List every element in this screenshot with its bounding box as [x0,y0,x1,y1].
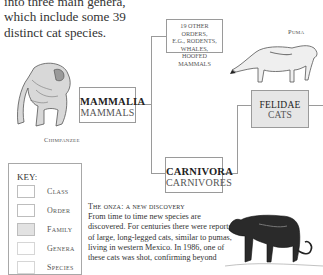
onza-article: The onza: a new discovery From time to t… [88,202,238,263]
puma-caption: Puma [288,28,304,35]
connector-felidae-in [237,105,251,106]
other-orders-line4: HOOFED MAMMALS [167,52,222,67]
connector-other-orders [151,36,166,37]
felidae-subtitle: CATS [252,110,308,120]
key-item-species: Species [17,261,81,275]
family-box-felidae: FELIDAE CATS [251,90,309,128]
chimpanzee-illustration [14,60,78,130]
intro-text: into three main genera, which include so… [4,0,134,40]
order-box-carnivora: CARNIVORA CARNIVORES [165,157,223,193]
key-item-order: Order [17,204,81,218]
other-orders-line2: E.G., RODENTS, [167,37,222,45]
mammalia-title: MAMMALIA [80,96,135,107]
key-label-class: Class [47,187,69,196]
connector-felidae-down [237,128,238,148]
swatch-species [17,261,35,274]
chimpanzee-caption: Chimpanzee [44,136,80,143]
onza-illustration [225,210,323,271]
puma-illustration [230,36,323,84]
legend-key: KEY: Class Order Family Genera Species [8,163,82,275]
other-orders-line3: WHALES, [167,45,222,53]
connector-vertical-orders [151,36,152,174]
connector-felidae-out [309,105,323,106]
felidae-title: FELIDAE [252,100,308,110]
key-label-species: Species [47,263,74,272]
swatch-genera [17,242,35,255]
class-box-mammalia: MAMMALIA MAMMALS [79,87,136,123]
key-label-order: Order [47,206,70,215]
onza-heading: The onza: a new discovery [88,202,238,212]
key-item-class: Class [17,185,81,199]
carnivora-subtitle: CARNIVORES [166,177,222,188]
carnivora-title: CARNIVORA [166,166,222,177]
mammalia-subtitle: MAMMALS [80,107,135,118]
other-orders-line1: 19 OTHER ORDERS, [167,22,222,37]
swatch-class [17,185,35,198]
key-label-genera: Genera [47,244,75,253]
onza-body: From time to time new species are discov… [88,212,238,263]
swatch-family [17,223,35,236]
key-label-family: Family [47,225,72,234]
swatch-order [17,204,35,217]
key-item-genera: Genera [17,242,81,256]
connector-carnivora-in [151,173,165,174]
key-title: KEY: [17,172,37,182]
order-box-other-orders: 19 OTHER ORDERS, E.G., RODENTS, WHALES, … [166,19,223,53]
key-item-family: Family [17,223,81,237]
